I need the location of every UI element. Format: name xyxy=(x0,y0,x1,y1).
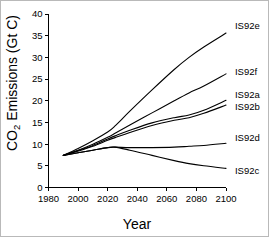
x-tick-label: 1980 xyxy=(38,193,59,204)
series-label-is92e: IS92e xyxy=(235,20,260,31)
series-line-is92c xyxy=(63,147,226,168)
y-tick-label: 0 xyxy=(37,182,42,193)
x-tick-label: 2040 xyxy=(127,193,148,204)
series-label-is92b: IS92b xyxy=(235,101,260,112)
series-label-is92f: IS92f xyxy=(235,66,258,77)
y-axis-ticks: 0510152025303540 xyxy=(32,8,49,193)
series-label-is92c: IS92c xyxy=(235,165,260,176)
chart-figure: 0510152025303540 19802000202020402060208… xyxy=(0,0,269,237)
series-lines xyxy=(63,33,226,168)
series-label-is92d: IS92d xyxy=(235,132,260,143)
y-tick-label: 15 xyxy=(32,117,43,128)
series-line-is92e xyxy=(63,33,226,155)
y-tick-label: 20 xyxy=(32,95,43,106)
svg-text:CO2 Emissions (Gt C): CO2 Emissions (Gt C) xyxy=(4,15,22,151)
y-axis-title-prefix: CO xyxy=(4,130,20,151)
y-tick-label: 25 xyxy=(32,73,43,84)
series-label-is92a: IS92a xyxy=(235,89,261,100)
y-tick-label: 10 xyxy=(32,139,43,150)
series-labels: IS92eIS92fIS92aIS92bIS92dIS92c xyxy=(235,20,261,175)
line-chart-svg: 0510152025303540 19802000202020402060208… xyxy=(1,1,269,237)
y-axis-title: CO2 Emissions (Gt C) xyxy=(4,15,22,151)
y-tick-label: 5 xyxy=(37,160,42,171)
x-tick-label: 2000 xyxy=(68,193,89,204)
y-tick-label: 40 xyxy=(32,8,43,19)
x-axis-title: Year xyxy=(123,216,152,232)
axes xyxy=(49,14,227,188)
y-axis-title-suffix: Emissions (Gt C) xyxy=(4,15,20,125)
x-tick-label: 2080 xyxy=(186,193,207,204)
x-tick-label: 2020 xyxy=(97,193,118,204)
y-tick-label: 35 xyxy=(32,30,43,41)
y-tick-label: 30 xyxy=(32,52,43,63)
x-axis-ticks: 1980200020202040206020802100 xyxy=(38,188,237,204)
x-tick-label: 2060 xyxy=(156,193,177,204)
x-tick-label: 2100 xyxy=(215,193,236,204)
